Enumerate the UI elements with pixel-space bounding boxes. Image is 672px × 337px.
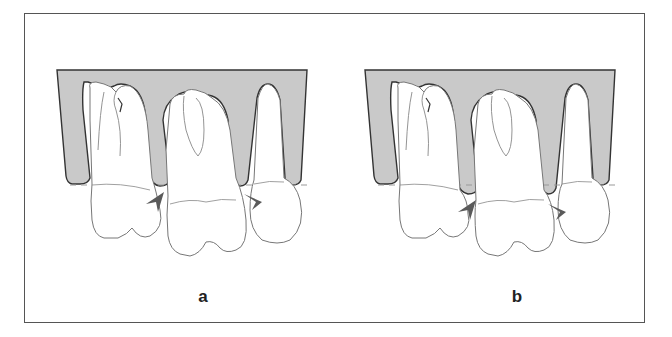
- panel-a: a: [0, 0, 310, 337]
- panel-label-b: b: [507, 287, 527, 307]
- panel-b: b: [308, 0, 618, 337]
- dental-diagram-a: [0, 0, 336, 337]
- panel-label-a: a: [193, 287, 213, 307]
- dental-diagram-b: [308, 0, 644, 337]
